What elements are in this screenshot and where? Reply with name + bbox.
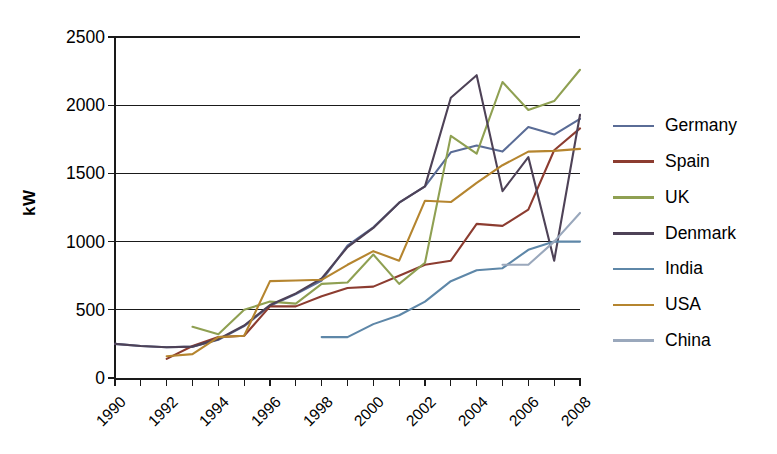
series-line-uk — [193, 70, 581, 335]
legend-swatch-uk — [613, 196, 654, 199]
x-axis-tick — [476, 378, 477, 386]
legend-item-denmark[interactable]: Denmark — [613, 215, 773, 251]
legend-label: USA — [665, 296, 701, 314]
x-axis-tick — [528, 378, 529, 386]
legend-item-spain[interactable]: Spain — [613, 144, 773, 180]
plot-area: 05001000150020002500 1990199219941996199… — [115, 37, 580, 378]
series-line-germany — [115, 119, 580, 347]
x-axis-tick-label: 2008 — [548, 393, 595, 440]
chart-legend: GermanySpainUKDenmarkIndiaUSAChina — [613, 108, 773, 359]
series-line-india — [322, 242, 580, 337]
legend-label: Denmark — [665, 225, 736, 243]
legend-item-india[interactable]: India — [613, 251, 773, 287]
y-axis-title: kW — [18, 148, 42, 258]
x-axis-tick — [554, 378, 555, 386]
y-axis-tick-label: 2000 — [66, 95, 105, 116]
legend-label: China — [665, 332, 711, 350]
x-axis-tick — [218, 378, 219, 386]
legend-swatch-germany — [613, 125, 654, 128]
x-axis-tick — [399, 378, 400, 386]
x-axis-tick-label: 1996 — [238, 393, 285, 440]
y-axis-tick-label: 1500 — [66, 163, 105, 184]
legend-item-germany[interactable]: Germany — [613, 108, 773, 144]
legend-item-usa[interactable]: USA — [613, 287, 773, 323]
legend-swatch-india — [613, 268, 654, 271]
x-axis-tick — [295, 378, 296, 386]
legend-swatch-spain — [613, 160, 654, 163]
legend-label: UK — [665, 189, 689, 207]
y-axis-tick-label: 1000 — [66, 231, 105, 252]
series-line-china — [503, 213, 581, 265]
legend-item-china[interactable]: China — [613, 323, 773, 359]
series-line-denmark — [115, 75, 580, 347]
x-axis-tick-label: 2004 — [445, 393, 492, 440]
x-axis-tick — [373, 378, 374, 386]
x-axis-tick-label: 2006 — [496, 393, 543, 440]
y-axis-tick-label: 500 — [76, 299, 105, 320]
data-series-group — [115, 37, 580, 378]
x-axis-tick — [192, 378, 193, 386]
x-axis-tick — [321, 378, 322, 386]
x-axis-tick-label: 1994 — [186, 393, 233, 440]
x-axis-tick-label: 1998 — [290, 393, 337, 440]
x-axis-tick — [114, 378, 115, 386]
legend-swatch-denmark — [613, 232, 654, 235]
chart-container: kW 05001000150020002500 1990199219941996… — [0, 0, 777, 454]
x-axis-tick — [424, 378, 425, 386]
y-axis-tick-label: 2500 — [66, 27, 105, 48]
x-axis-tick — [269, 378, 270, 386]
x-axis-tick-label: 2000 — [341, 393, 388, 440]
x-axis-tick — [347, 378, 348, 386]
legend-label: Spain — [665, 153, 710, 171]
y-axis-tick-label: 0 — [95, 368, 105, 389]
x-axis-tick — [140, 378, 141, 386]
x-axis-tick — [579, 378, 580, 386]
x-axis-tick — [244, 378, 245, 386]
x-axis-tick — [166, 378, 167, 386]
x-axis-tick-label: 1990 — [83, 393, 130, 440]
legend-label: Germany — [665, 117, 737, 135]
legend-swatch-china — [613, 339, 654, 342]
x-axis-tick-label: 1992 — [135, 393, 182, 440]
x-axis-tick — [450, 378, 451, 386]
legend-swatch-usa — [613, 304, 654, 307]
x-axis-tick — [502, 378, 503, 386]
x-axis-tick-label: 2002 — [393, 393, 440, 440]
legend-item-uk[interactable]: UK — [613, 180, 773, 216]
legend-label: India — [665, 260, 703, 278]
